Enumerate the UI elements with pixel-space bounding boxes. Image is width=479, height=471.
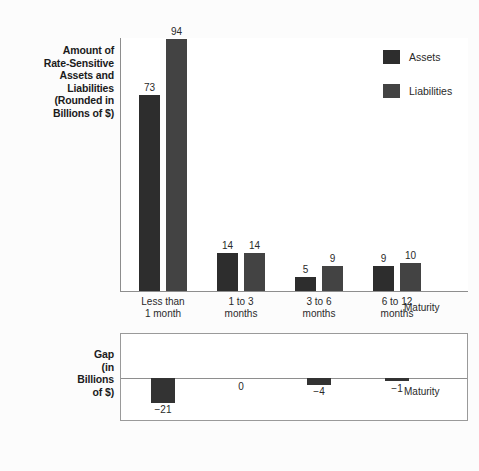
x-tick-line-1: 3 to 6 bbox=[276, 296, 362, 308]
gap-chart-x-axis-label: Maturity bbox=[404, 386, 440, 397]
x-tick-line-1: 1 to 3 bbox=[198, 296, 284, 308]
bar-value-assets-3: 9 bbox=[381, 253, 387, 264]
bar-value-liabilities-0: 94 bbox=[171, 26, 182, 37]
x-tick-less-than-1-month: Less than 1 month bbox=[120, 296, 206, 320]
bar-rect-liabilities-2 bbox=[322, 266, 343, 291]
x-tick-line-2: months bbox=[198, 308, 284, 320]
bar-rect-liabilities-1 bbox=[244, 253, 265, 291]
gap-chart-y-axis-label: Gap (in Billions of $) bbox=[14, 348, 114, 398]
gap-group-3-to-6-months: −4 bbox=[283, 378, 355, 420]
gap-bar-value-3: −1 bbox=[391, 383, 402, 394]
bar-value-liabilities-1: 14 bbox=[249, 240, 260, 251]
legend-item-assets: Assets bbox=[383, 47, 475, 67]
gap-group-6-to-12-months: −1 bbox=[361, 378, 433, 420]
bar-rect-assets-3 bbox=[373, 266, 394, 291]
y-label-line-2: Rate-Sensitive bbox=[10, 57, 114, 70]
bar-liabilities-3: 10 bbox=[400, 263, 421, 291]
bar-assets-1: 14 bbox=[217, 253, 238, 291]
bar-group-less-than-1-month: 73 94 bbox=[127, 39, 199, 291]
gap-y-label-line-2: (in bbox=[14, 361, 114, 374]
y-label-line-5: (Rounded in bbox=[10, 94, 114, 107]
bar-value-assets-0: 73 bbox=[144, 82, 155, 93]
gap-bar-chart: Gap (in Billions of $) −21 0 −4 bbox=[0, 330, 479, 450]
x-tick-line-1: Less than bbox=[120, 296, 206, 308]
bar-assets-3: 9 bbox=[373, 266, 394, 291]
y-label-line-3: Assets and bbox=[10, 69, 114, 82]
x-tick-1-to-3-months: 1 to 3 months bbox=[198, 296, 284, 320]
gap-bar-value-2: −4 bbox=[313, 386, 324, 397]
gap-bar-rect-2 bbox=[307, 378, 331, 385]
bar-rect-assets-2 bbox=[295, 277, 316, 291]
y-label-line-4: Liabilities bbox=[10, 82, 114, 95]
gap-group-1-to-3-months: 0 bbox=[205, 378, 277, 420]
legend-swatch-assets-icon bbox=[383, 50, 400, 64]
bar-liabilities-2: 9 bbox=[322, 266, 343, 291]
legend-label-assets: Assets bbox=[409, 51, 441, 63]
gap-group-less-than-1-month: −21 bbox=[127, 378, 199, 420]
top-chart-y-axis-label: Amount of Rate-Sensitive Assets and Liab… bbox=[10, 44, 114, 120]
legend-label-liabilities: Liabilities bbox=[409, 85, 452, 97]
gap-chart-bars: −21 0 −4 −1 bbox=[121, 334, 467, 420]
legend-swatch-liabilities-icon bbox=[383, 84, 400, 98]
legend-item-liabilities: Liabilities bbox=[383, 81, 475, 101]
figure-canvas: Amount of Rate-Sensitive Assets and Liab… bbox=[0, 0, 479, 471]
y-label-line-1: Amount of bbox=[10, 44, 114, 57]
x-tick-3-to-6-months: 3 to 6 months bbox=[276, 296, 362, 320]
chart-legend: Assets Liabilities bbox=[383, 47, 475, 115]
gap-y-label-line-3: Billions bbox=[14, 373, 114, 386]
gap-bar-value-1: 0 bbox=[238, 381, 244, 392]
gap-chart-plot-area: −21 0 −4 −1 bbox=[120, 333, 468, 421]
bar-assets-0: 73 bbox=[139, 95, 160, 291]
gap-bar-rect-3 bbox=[385, 378, 409, 381]
bar-value-assets-1: 14 bbox=[222, 240, 233, 251]
bar-rect-assets-1 bbox=[217, 253, 238, 291]
gap-bar-rect-0 bbox=[151, 378, 175, 403]
bar-group-3-to-6-months: 5 9 bbox=[283, 39, 355, 291]
bar-value-liabilities-2: 9 bbox=[330, 253, 336, 264]
gap-y-label-line-1: Gap bbox=[14, 348, 114, 361]
bar-value-assets-2: 5 bbox=[303, 264, 309, 275]
bar-liabilities-1: 14 bbox=[244, 253, 265, 291]
bar-rect-liabilities-0 bbox=[166, 39, 187, 291]
bar-group-1-to-3-months: 14 14 bbox=[205, 39, 277, 291]
bar-rect-assets-0 bbox=[139, 95, 160, 291]
bar-liabilities-0: 94 bbox=[166, 39, 187, 291]
x-tick-line-2: 1 month bbox=[120, 308, 206, 320]
top-chart-x-axis-label: Maturity bbox=[404, 302, 440, 313]
x-tick-line-2: months bbox=[276, 308, 362, 320]
bar-value-liabilities-3: 10 bbox=[405, 250, 416, 261]
bar-assets-2: 5 bbox=[295, 277, 316, 291]
bar-rect-liabilities-3 bbox=[400, 263, 421, 291]
y-label-line-6: Billions of $) bbox=[10, 107, 114, 120]
rate-sensitive-bar-chart: Amount of Rate-Sensitive Assets and Liab… bbox=[0, 0, 479, 330]
gap-bar-value-0: −21 bbox=[155, 404, 172, 415]
gap-y-label-line-4: of $) bbox=[14, 386, 114, 399]
